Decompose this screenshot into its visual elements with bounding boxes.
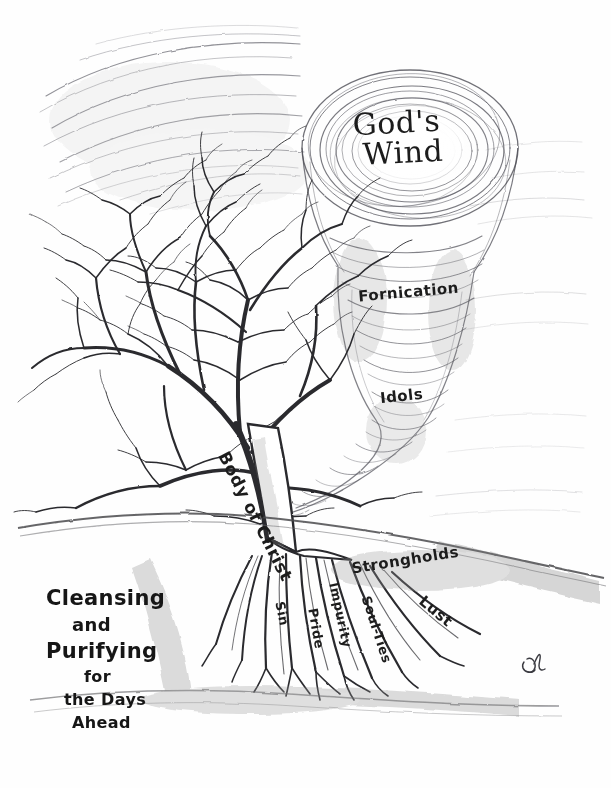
- caption-line-1: Cleansing: [46, 588, 206, 609]
- caption-line-5: the Days: [46, 692, 206, 708]
- caption-line-3: Purifying: [46, 641, 206, 662]
- tornado-shading: [334, 238, 476, 464]
- tornado-eye: [350, 104, 474, 188]
- tree-trunk: [248, 424, 352, 560]
- caption-line-4: for: [46, 669, 206, 685]
- caption-block: Cleansing and Purifying for the Days Ahe…: [46, 588, 206, 738]
- drawing-canvas: God's Wind Fornication Idols Body of Chr…: [0, 0, 611, 788]
- caption-line-2: and: [46, 616, 206, 634]
- sky-smudge: [50, 62, 310, 210]
- artist-signature: [518, 648, 552, 678]
- caption-line-6: Ahead: [46, 715, 206, 731]
